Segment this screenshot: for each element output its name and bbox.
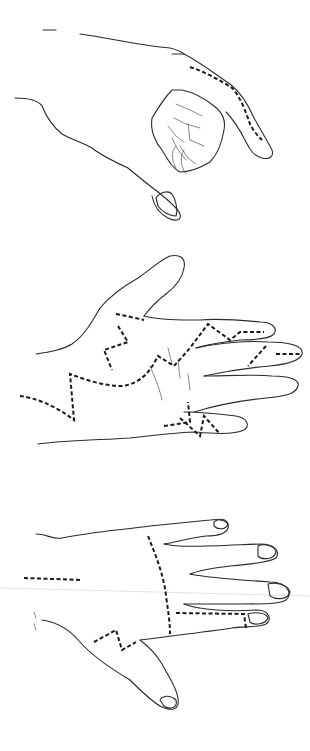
hand-palmar-drawing xyxy=(0,240,310,450)
hand-lateral-drawing xyxy=(0,0,310,230)
hand-palmar-view xyxy=(0,240,310,450)
hand-dorsal-drawing xyxy=(0,500,310,751)
hand-lateral-view xyxy=(0,0,310,230)
hand-dorsal-view xyxy=(0,500,310,751)
